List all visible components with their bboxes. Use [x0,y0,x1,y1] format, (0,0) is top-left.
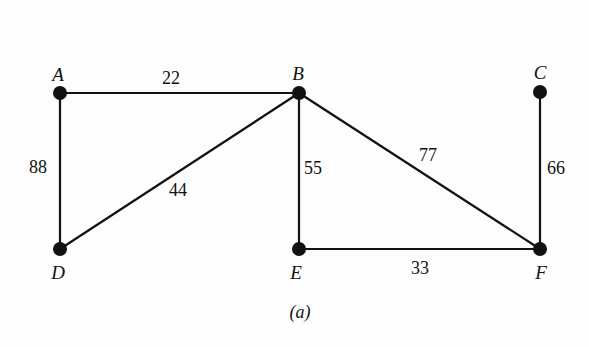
edge-weight-d-b: 44 [169,181,187,199]
node-label-a: A [52,65,64,84]
edge-weight-e-f: 33 [411,259,429,277]
node-label-c: C [534,63,547,82]
node-label-f: F [535,263,547,282]
node-label-e: E [290,263,302,282]
edge-weight-c-f: 66 [547,159,565,177]
edge-weight-b-f: 77 [419,146,437,164]
edge-weight-a-b: 22 [162,69,180,87]
edge-weight-b-e: 55 [304,159,322,177]
graph-node-a [53,86,67,100]
graph-drawing [0,0,589,347]
edge-layer [60,92,540,249]
edge-weight-a-d: 88 [29,158,47,176]
graph-node-e [292,242,306,256]
graph-node-f [533,242,547,256]
node-label-b: B [292,64,304,83]
graph-edge-d-b [60,93,299,249]
graph-node-d [53,242,67,256]
figure-caption: (a) [290,303,311,321]
graph-edge-b-f [299,93,540,249]
node-label-d: D [51,263,65,282]
graph-node-b [292,86,306,100]
figure-canvas: ABCDEF 22884455776633 (a) [0,0,589,347]
graph-node-c [533,85,547,99]
